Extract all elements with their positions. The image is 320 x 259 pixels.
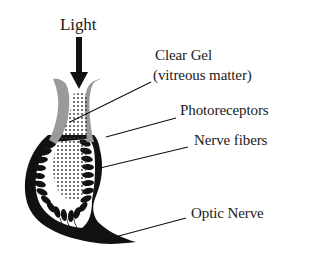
light-arrow-icon [70, 37, 88, 89]
label-vitreous-matter: (vitreous matter) [153, 67, 252, 83]
label-photoreceptors: Photoreceptors [180, 102, 269, 118]
label-optic-nerve: Optic Nerve [191, 205, 264, 221]
leader-optic-nerve [100, 218, 186, 241]
label-light: Light [60, 16, 96, 34]
leader-nerve-fibers [100, 147, 188, 168]
label-nerve-fibers: Nerve fibers [194, 132, 267, 148]
label-clear-gel: Clear Gel [155, 47, 212, 63]
leader-photoreceptors [106, 118, 176, 137]
